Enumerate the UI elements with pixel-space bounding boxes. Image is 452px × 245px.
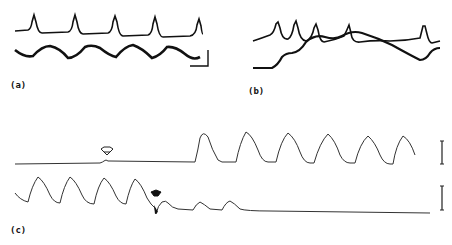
scale-bar-c-bottom [440, 186, 444, 210]
open-arrow-icon [101, 147, 113, 155]
figure-canvas [0, 0, 452, 245]
filled-arrow-icon [151, 190, 161, 196]
trace-c-bottom [15, 177, 430, 214]
trace-a-sine [15, 45, 200, 58]
trace-c-top [15, 132, 415, 164]
panel-label-b: (b) [248, 86, 264, 96]
trace-b-slow [253, 32, 440, 68]
trace-b-spikes [253, 21, 440, 43]
panel-label-c: (c) [10, 225, 26, 235]
panel-label-a: (a) [10, 80, 26, 90]
scale-bar-c-top [440, 141, 444, 164]
trace-a-spikes [15, 15, 203, 37]
